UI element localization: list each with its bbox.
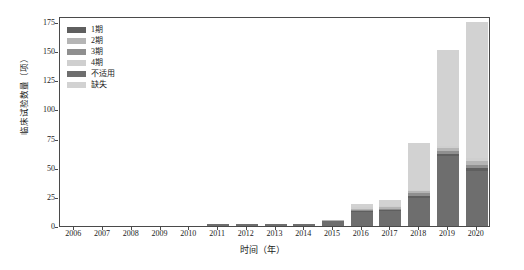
x-tick-label: 2020 [468,229,484,238]
x-tick-label: 2017 [381,229,397,238]
legend-label: 不适用 [91,70,115,78]
chart-legend: 1期2期3期4期不适用缺失 [63,21,121,93]
x-tick-label: 2016 [353,229,369,238]
y-tick-mark [55,110,58,111]
y-tick-mark [55,227,58,228]
x-tick-label: 2018 [410,229,426,238]
x-tick-label: 2012 [238,229,254,238]
x-axis-tick-marks [59,0,490,240]
legend-label: 1期 [91,26,103,34]
y-tick-mark [55,169,58,170]
x-tick-label: 2019 [439,229,455,238]
legend-swatch [67,27,86,33]
x-tick-label: 2015 [324,229,340,238]
x-axis-tick-labels: 2006200720082009201020112012201320142015… [59,229,490,243]
y-tick-mark [55,198,58,199]
y-tick-mark [55,23,58,24]
legend-item: 不适用 [67,68,115,79]
legend-swatch [67,60,86,66]
x-tick-label: 2014 [295,229,311,238]
x-tick-label: 2006 [65,229,81,238]
legend-swatch [67,82,86,88]
legend-item: 缺失 [67,79,115,90]
legend-label: 2期 [91,37,103,45]
x-axis-title: 时间（年） [0,243,524,256]
y-tick-mark [55,140,58,141]
y-tick-mark [55,52,58,53]
legend-label: 4期 [91,59,103,67]
x-tick-label: 2007 [94,229,110,238]
x-tick-label: 2008 [123,229,139,238]
legend-item: 4期 [67,57,115,68]
x-tick-label: 2013 [267,229,283,238]
legend-item: 1期 [67,24,115,35]
x-tick-label: 2010 [180,229,196,238]
legend-swatch [67,49,86,55]
legend-item: 2期 [67,35,115,46]
x-tick-label: 2009 [152,229,168,238]
legend-label: 缺失 [91,81,107,89]
y-axis-tick-marks [0,17,59,227]
x-tick-label: 2011 [209,229,225,238]
legend-item: 3期 [67,46,115,57]
legend-label: 3期 [91,48,103,56]
legend-swatch [67,71,86,77]
chart-figure: 临床试验数量（项） 0255075100125150175 2006200720… [0,0,524,270]
legend-swatch [67,38,86,44]
y-tick-mark [55,81,58,82]
